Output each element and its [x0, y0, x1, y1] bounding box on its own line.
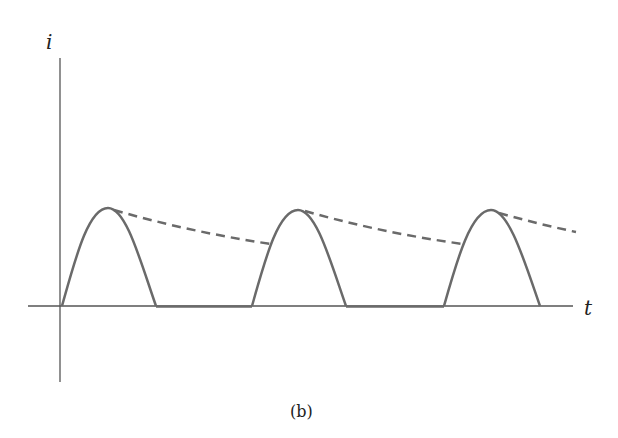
- pulse-2: [252, 210, 346, 306]
- pulse-1: [62, 208, 156, 306]
- x-axis-label: t: [584, 296, 593, 320]
- envelope-dash-1: [114, 210, 271, 244]
- pulse-3: [444, 210, 540, 306]
- envelope-dash-2: [305, 211, 463, 244]
- rectifier-waveform-diagram: i t (b): [0, 0, 618, 438]
- figure-caption: (b): [290, 402, 313, 421]
- y-axis-label: i: [46, 30, 52, 54]
